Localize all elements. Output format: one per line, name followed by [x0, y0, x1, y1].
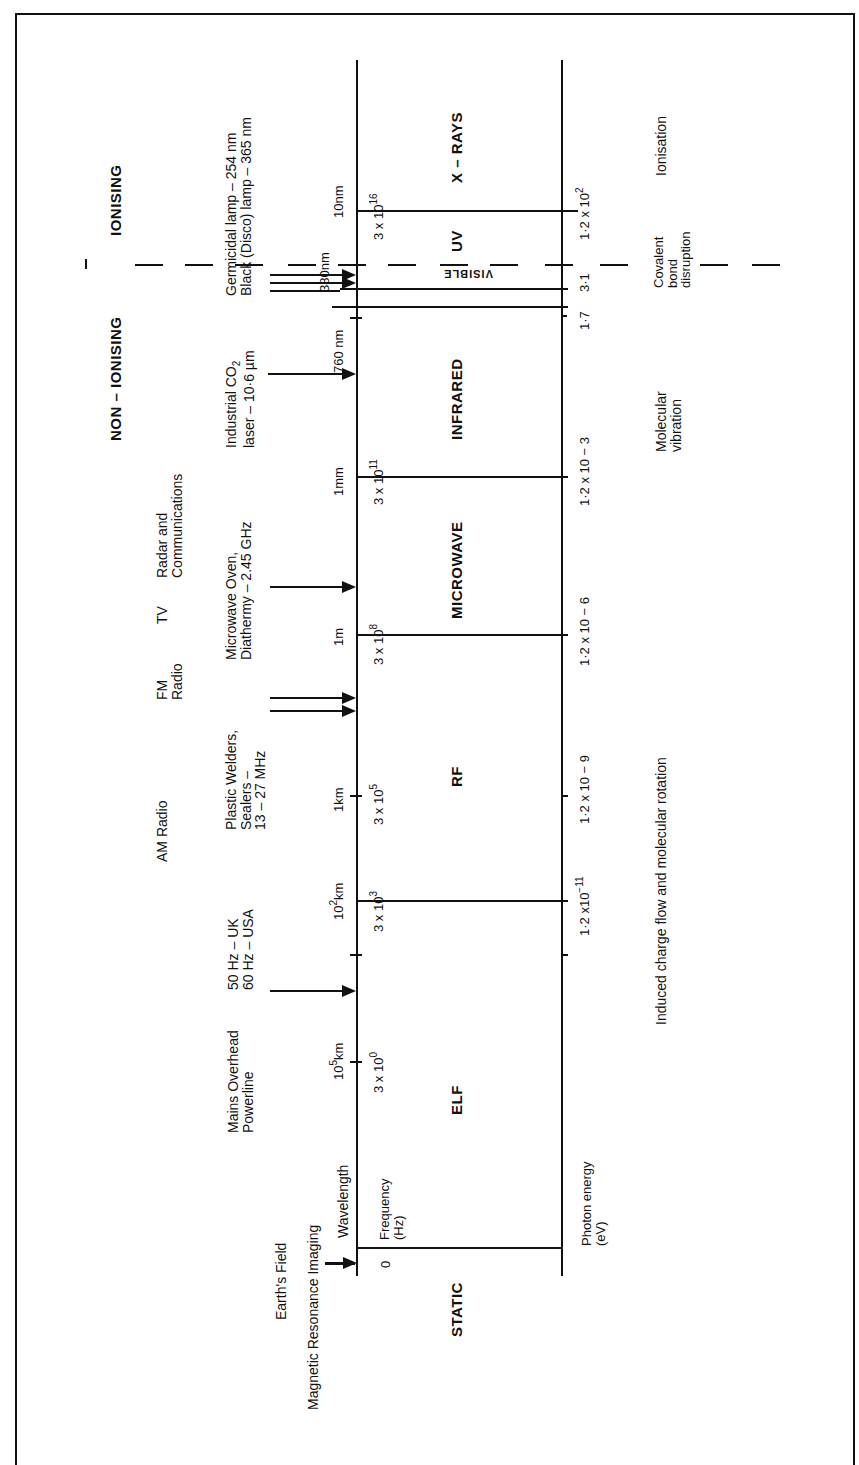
wavelength-tick-10e2km: 102km: [332, 883, 346, 920]
source-earths-field: Earth's Field: [274, 1243, 289, 1320]
wavelength-tick-760nm: 760 nm: [332, 330, 346, 373]
label-non-ionising: NON – IONISING: [108, 316, 124, 441]
frequency-tick-3e16: 3 x 1016: [372, 193, 386, 240]
wavelength-tick-380nm: 380nm: [318, 252, 332, 292]
energy-tick-1.2e-6: 1·2 x 10 − 6: [578, 597, 592, 666]
band-uv: UV: [449, 230, 465, 252]
source-mains-freq: 50 Hz – UK60 Hz – USA: [226, 909, 255, 990]
arrow-germicidal-lamp: [270, 282, 354, 284]
boundary-rf-elf: [356, 900, 568, 902]
wavelength-tick-1m: 1m: [332, 628, 346, 646]
band-infrared: INFRARED: [449, 359, 465, 441]
band-elf: ELF: [449, 1085, 465, 1115]
band-rf: RF: [449, 766, 465, 787]
band-microwave: MICROWAVE: [449, 521, 465, 619]
wavelength-tick-1km: 1km: [332, 787, 346, 812]
axis-label-wavelength: Wavelength: [336, 1165, 351, 1238]
source-radar: Radar andCommunications: [155, 474, 184, 578]
tick: [350, 795, 362, 797]
tick: [561, 795, 568, 797]
tick: [561, 315, 567, 317]
effect-induced-charge: Induced charge flow and molecular rotati…: [654, 757, 669, 1025]
wavelength-tick-10nm: 10nm: [332, 185, 346, 218]
energy-tick-1.7: 1·7: [578, 311, 592, 330]
source-fm-radio: FMRadio: [155, 663, 184, 700]
source-microwave-oven: Microwave Oven,Diathermy – 2.45 GHz: [224, 522, 253, 661]
boundary-uv-visible: [340, 288, 568, 290]
arrow-black-lamp: [270, 274, 354, 276]
axis-label-zero: 0: [379, 1261, 393, 1268]
effect-molecular-vibration: Molecularvibration: [654, 391, 683, 452]
band-static: STATIC: [449, 1282, 465, 1337]
energy-tick-1.2e-3: 1·2 x 10 − 3: [578, 437, 592, 506]
source-mains: Mains OverheadPowerline: [226, 1030, 255, 1133]
source-co2-laser: Industrial CO2laser – 10·6 µm: [224, 350, 257, 448]
frequency-tick-3e11: 3 x 1011: [372, 459, 386, 505]
boundary-infrared-microwave: [356, 476, 568, 478]
boundary-xray-uv: [356, 210, 578, 212]
wavelength-axis-line: [356, 60, 358, 1276]
source-mri: Magnetic Resonance Imaging: [306, 1225, 321, 1410]
axis-label-photon-energy: Photon energy (eV): [580, 1161, 607, 1246]
label-ionising: IONISING: [108, 164, 124, 236]
frequency-tick-3e0: 3 x 100: [372, 1052, 386, 1093]
tick: [350, 317, 362, 319]
band-visible: VISIBLE: [428, 264, 508, 280]
arrow-microwave-oven: [270, 586, 354, 588]
source-plastic-welders: Plastic Welders,Sealers –13 – 27 MHz: [224, 730, 268, 830]
boundary-visible-infrared: [332, 306, 568, 308]
tick: [350, 1061, 362, 1063]
arrow-mains: [270, 990, 354, 992]
band-xrays: X – RAYS: [449, 112, 465, 183]
source-tv: TV: [155, 606, 170, 624]
frequency-tick-3e3: 3 x 103: [372, 891, 386, 932]
wavelength-tick-10e5km: 105km: [332, 1043, 346, 1080]
arrow-co2-laser: [268, 373, 354, 375]
arrow-mri: [325, 1262, 355, 1265]
tick: [350, 954, 362, 956]
tick: [561, 954, 568, 956]
energy-axis-line: [561, 60, 563, 1276]
arrow-plastic-welders: [270, 697, 354, 699]
energy-tick-1.2e2: 1·2 x 102: [578, 187, 592, 240]
frequency-tick-3e5: 3 x 105: [372, 784, 386, 825]
arrow-fm-radio: [270, 710, 354, 712]
source-am-radio: AM Radio: [155, 801, 170, 862]
source-uv-lamps: Germicidal lamp – 254 nmBlack (Disco) la…: [224, 117, 253, 296]
axis-label-frequency: Frequency (Hz): [378, 1179, 405, 1240]
boundary-microwave-rf: [356, 634, 568, 636]
energy-tick-3.1: 3·1: [578, 273, 592, 292]
effect-ionisation: Ionisation: [654, 116, 669, 176]
wavelength-tick-1mm: 1mm: [332, 467, 346, 496]
frequency-tick-3e8: 3 x 108: [372, 624, 386, 665]
boundary-elf-static: [356, 1247, 563, 1249]
energy-tick-1.2e-11: 1·2 x10−11: [578, 876, 592, 936]
effect-covalent-bond: Covalentbonddisruption: [652, 232, 693, 288]
energy-tick-1.2e-9: 1·2 x 10 − 9: [578, 755, 592, 824]
